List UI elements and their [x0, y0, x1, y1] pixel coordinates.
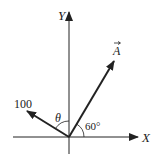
- vector-100-label: 100: [14, 97, 32, 111]
- x-axis-label: X: [141, 130, 151, 145]
- y-axis-label: Y: [58, 8, 67, 23]
- vector-diagram: X Y A 60° 100 θ: [0, 0, 164, 166]
- vector-a-label: A: [112, 44, 121, 58]
- angle-60-label: 60°: [85, 120, 100, 132]
- vector-100: [27, 111, 69, 137]
- theta-label: θ: [55, 111, 61, 125]
- angle-arc-60: [77, 124, 84, 137]
